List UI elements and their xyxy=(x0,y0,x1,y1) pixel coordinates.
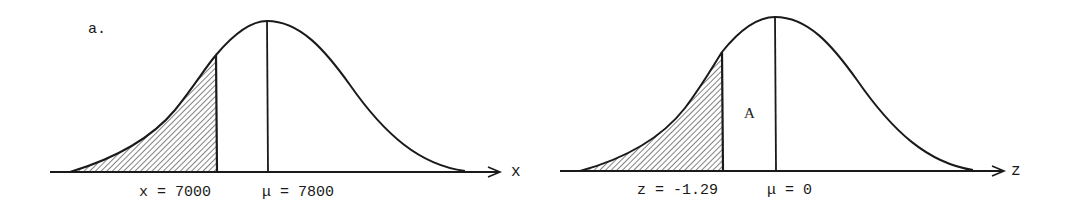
right-cut-line xyxy=(722,52,723,171)
left-normal-curve-group: x x = 7000 μ = 7800 xyxy=(50,21,521,201)
left-cut-line xyxy=(216,55,217,172)
right-mean-line xyxy=(775,17,776,171)
right-cut-label: z = -1.29 xyxy=(637,182,718,199)
left-shaded-tail xyxy=(70,55,216,172)
left-cut-label: x = 7000 xyxy=(139,184,211,201)
right-shaded-tail xyxy=(580,52,722,171)
right-mean-label: μ = 0 xyxy=(767,182,812,199)
panel-label: a. xyxy=(88,21,106,38)
area-a-label: A xyxy=(744,105,755,121)
left-mean-label: μ = 7800 xyxy=(262,184,334,201)
normal-distribution-figure: a. x x = 7000 μ = 7800 A z z = -1.29 μ =… xyxy=(0,0,1073,202)
right-normal-curve-group: A z z = -1.29 μ = 0 xyxy=(560,17,1021,199)
left-mean-line xyxy=(267,21,268,172)
right-axis-variable-label: z xyxy=(1011,162,1021,180)
left-axis-variable-label: x xyxy=(511,163,521,181)
